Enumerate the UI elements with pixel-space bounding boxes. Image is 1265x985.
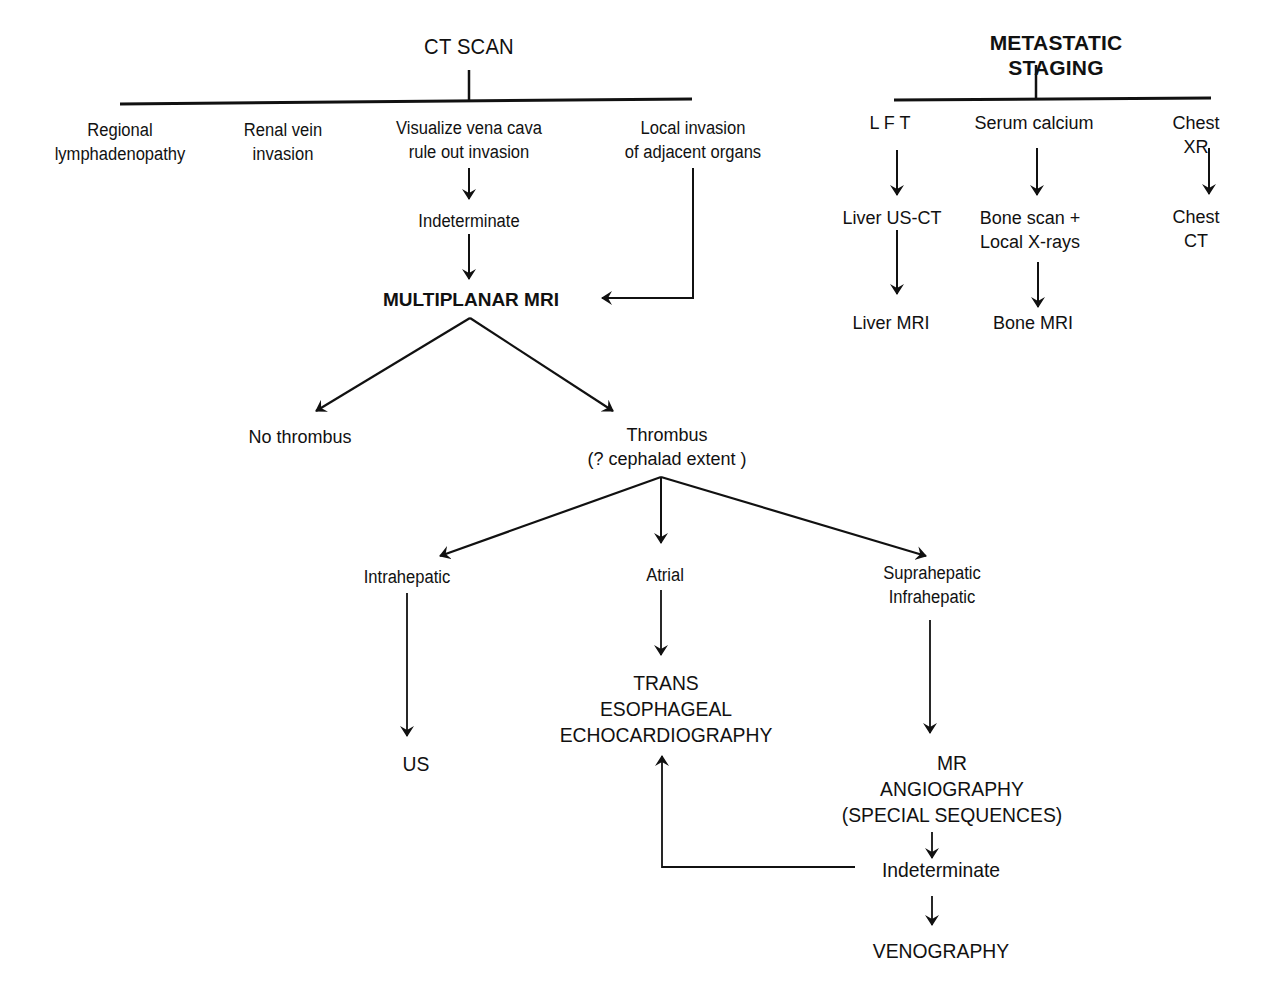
mr-angiography-node: MR ANGIOGRAPHY (SPECIAL SEQUENCES) bbox=[842, 750, 1062, 828]
intrahepatic-node: Intrahepatic bbox=[364, 565, 451, 589]
liver-us-ct-node: Liver US-CT bbox=[842, 206, 941, 230]
us-node: US bbox=[403, 752, 430, 776]
no-thrombus-node: No thrombus bbox=[248, 425, 351, 449]
metastatic-staging-root: METASTATIC STAGING bbox=[952, 30, 1161, 80]
chest-ct-node: Chest CT bbox=[1162, 205, 1231, 253]
atrial-node: Atrial bbox=[646, 563, 684, 587]
ct-scan-root: CT SCAN bbox=[424, 34, 514, 59]
thrombus-node: Thrombus (? cephalad extent ) bbox=[587, 423, 746, 471]
branch-renal-vein-invasion: Renal vein invasion bbox=[244, 118, 322, 166]
bone-scan-node: Bone scan + Local X-rays bbox=[980, 206, 1081, 254]
branch-local-invasion: Local invasion of adjacent organs bbox=[625, 116, 761, 164]
indeterminate-node-2: Indeterminate bbox=[882, 858, 1000, 882]
suprahepatic-infrahepatic-node: Suprahepatic Infrahepatic bbox=[883, 561, 981, 609]
bone-mri-node: Bone MRI bbox=[993, 311, 1073, 335]
transesophageal-echo-node: TRANS ESOPHAGEAL ECHOCARDIOGRAPHY bbox=[560, 670, 773, 748]
branch-lft: L F T bbox=[869, 111, 910, 135]
multiplanar-mri-node: MULTIPLANAR MRI bbox=[383, 288, 559, 312]
branch-chest-xr: Chest XR bbox=[1162, 111, 1231, 159]
indeterminate-node-1: Indeterminate bbox=[418, 209, 519, 233]
branch-visualize-vena-cava: Visualize vena cava rule out invasion bbox=[396, 116, 542, 164]
venography-node: VENOGRAPHY bbox=[873, 939, 1009, 963]
branch-regional-lymphadenopathy: Regional lymphadenopathy bbox=[55, 118, 186, 166]
branch-serum-calcium: Serum calcium bbox=[974, 111, 1093, 135]
liver-mri-node: Liver MRI bbox=[852, 311, 929, 335]
